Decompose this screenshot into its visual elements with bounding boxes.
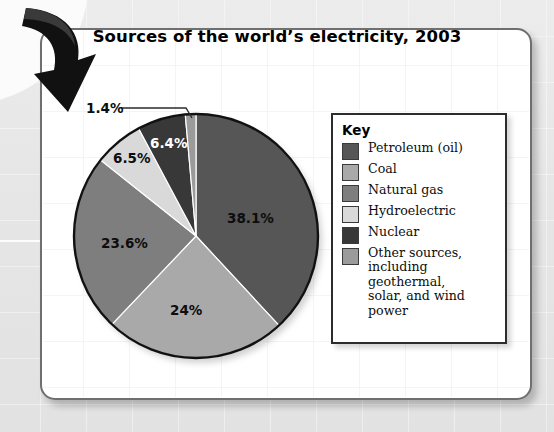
- legend-item-coal[interactable]: Coal: [342, 162, 505, 181]
- pie-label-hydroelectric: 6.5%: [113, 150, 150, 166]
- legend-item-hydroelectric[interactable]: Hydroelectric: [342, 204, 505, 223]
- legend-box: Key Petroleum (oil) Coal Natural gas Hyd…: [331, 113, 507, 344]
- legend-item-natural-gas[interactable]: Natural gas: [342, 183, 505, 202]
- legend-label-hydroelectric: Hydroelectric: [368, 204, 456, 218]
- legend-title: Key: [342, 122, 505, 138]
- legend-label-other-line1: Other sources,: [368, 246, 505, 260]
- pie-label-coal: 24%: [170, 302, 202, 318]
- legend-label-coal: Coal: [368, 162, 397, 176]
- legend-swatch-nuclear: [342, 227, 359, 244]
- legend-item-petroleum[interactable]: Petroleum (oil): [342, 141, 505, 160]
- legend-swatch-petroleum: [342, 143, 359, 160]
- legend-swatch-natural-gas: [342, 185, 359, 202]
- legend-swatch-other-sources: [342, 248, 359, 265]
- pie-label-natural-gas: 23.6%: [101, 235, 148, 251]
- legend-label-nuclear: Nuclear: [368, 225, 419, 239]
- legend-item-other-sources[interactable]: Other sources, including geothermal, sol…: [342, 246, 505, 318]
- pie-label-nuclear: 6.4%: [150, 135, 187, 151]
- curved-down-right-arrow-icon: [4, 2, 116, 120]
- legend-label-other-line2: including geothermal,: [368, 260, 505, 289]
- legend-label-other-line3: solar, and wind power: [368, 289, 505, 318]
- legend-label-natural-gas: Natural gas: [368, 183, 443, 197]
- pie-label-petroleum: 38.1%: [227, 210, 274, 226]
- legend-swatch-coal: [342, 164, 359, 181]
- legend-item-nuclear[interactable]: Nuclear: [342, 225, 505, 244]
- backdrop-rule: [0, 240, 42, 242]
- legend-label-petroleum: Petroleum (oil): [368, 141, 463, 155]
- legend-swatch-hydroelectric: [342, 206, 359, 223]
- legend-label-other-sources: Other sources, including geothermal, sol…: [368, 246, 505, 318]
